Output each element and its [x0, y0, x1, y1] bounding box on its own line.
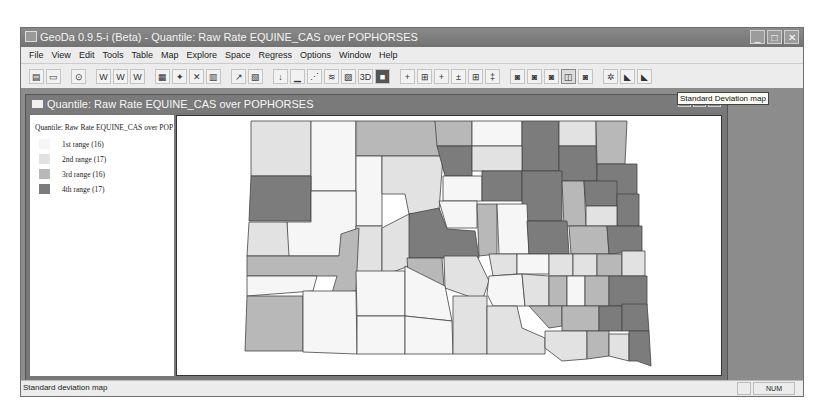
close-project-icon[interactable]: ▭ — [46, 69, 61, 84]
lisa-map-icon[interactable]: ⊞ — [468, 69, 483, 84]
map-canvas[interactable] — [176, 115, 722, 376]
menu-edit[interactable]: Edit — [75, 47, 99, 63]
print-icon[interactable]: ■ — [375, 69, 390, 84]
geoda-app-window: GeoDa 0.9.5-i (Beta) - Quantile: Raw Rat… — [20, 27, 804, 397]
map-5-icon[interactable]: ◙ — [578, 69, 593, 84]
map-1-icon[interactable]: ◙ — [510, 69, 525, 84]
menu-table[interactable]: Table — [127, 47, 157, 63]
mdi-client-area: Quantile: Raw Rate EQUINE_CAS over POPHO… — [21, 88, 803, 381]
weights-properties-icon[interactable]: W — [130, 69, 145, 84]
legend-swatch — [39, 139, 50, 149]
box-icon[interactable]: ▥ — [206, 69, 221, 84]
map-quantile-icon[interactable]: ▦ — [155, 69, 170, 84]
toolbar-tooltip: Standard Deviation map — [677, 92, 769, 105]
moran-icon[interactable]: + — [400, 69, 415, 84]
bivariate-moran-icon[interactable]: + — [434, 69, 449, 84]
legend-label: 3rd range (16) — [62, 170, 105, 179]
status-bar: Standard deviation map NUM — [21, 380, 803, 396]
map-2-icon[interactable]: ◙ — [527, 69, 542, 84]
menu-view[interactable]: View — [48, 47, 75, 63]
close-button[interactable]: ✕ — [784, 30, 799, 44]
lisa-rate-icon[interactable]: ‡ — [485, 69, 500, 84]
menu-tools[interactable]: Tools — [98, 47, 127, 63]
legend-swatch — [39, 154, 50, 164]
menu-window[interactable]: Window — [335, 47, 375, 63]
legend-title: Quantile: Raw Rate EQUINE_CAS over POPHO… — [35, 123, 173, 132]
parallel-coords-icon[interactable]: ≋ — [324, 69, 339, 84]
num-lock-indicator: NUM — [753, 382, 795, 395]
lisa-icon[interactable]: ↗ — [231, 69, 246, 84]
legend-label: 4th range (17) — [62, 185, 104, 194]
menu-help[interactable]: Help — [375, 47, 402, 63]
open-project-icon[interactable]: ▤ — [29, 69, 44, 84]
legend-panel: Quantile: Raw Rate EQUINE_CAS over POPHO… — [30, 115, 174, 376]
maximize-button[interactable]: □ — [767, 30, 782, 44]
legend-swatch — [39, 184, 50, 194]
menu-file[interactable]: File — [25, 47, 48, 63]
map-percentile-icon[interactable]: ✦ — [172, 69, 187, 84]
south-dakota-county-map[interactable] — [177, 116, 721, 378]
conditional-plot-icon[interactable]: ▨ — [341, 69, 356, 84]
weights-create-icon[interactable]: W — [96, 69, 111, 84]
status-indicator-caps — [737, 382, 751, 395]
rate-1-icon[interactable]: ◣ — [620, 69, 635, 84]
std-dev-map-icon[interactable]: ◫ — [561, 69, 576, 84]
pointer-icon[interactable]: ↓ — [273, 69, 288, 84]
histogram-icon[interactable]: ▁ — [290, 69, 305, 84]
status-message: Standard deviation map — [23, 383, 108, 392]
title-bar: GeoDa 0.9.5-i (Beta) - Quantile: Raw Rat… — [21, 28, 803, 47]
toolbar: ▤ ▭ ⊙ W W W ▦ ✦ ✕ ▥ ↗ ▧ ↓ ▁ ⋰ ≋ ▨ 3D ■ +… — [21, 63, 803, 89]
legend-label: 1st range (16) — [62, 140, 104, 149]
legend-item[interactable]: 1st range (16) — [39, 139, 104, 149]
legend-swatch — [39, 169, 50, 179]
legend-item[interactable]: 3rd range (16) — [39, 169, 105, 179]
menu-explore[interactable]: Explore — [182, 47, 221, 63]
legend-label: 2nd range (17) — [62, 155, 106, 164]
geoda-app-icon — [25, 31, 37, 42]
lisa-cluster-icon[interactable]: ▧ — [248, 69, 263, 84]
document-icon — [32, 100, 43, 108]
legend-item[interactable]: 2nd range (17) — [39, 154, 106, 164]
scatter-icon[interactable]: ✕ — [189, 69, 204, 84]
smooth-icon[interactable]: ✲ — [603, 69, 618, 84]
weights-open-icon[interactable]: W — [113, 69, 128, 84]
lisa-univariate-icon[interactable]: ± — [451, 69, 466, 84]
map-3-icon[interactable]: ◙ — [544, 69, 559, 84]
menu-space[interactable]: Space — [221, 47, 255, 63]
moran-rate-icon[interactable]: ⊞ — [417, 69, 432, 84]
scatter-plot-icon[interactable]: ⋰ — [307, 69, 322, 84]
legend-item[interactable]: 4th range (17) — [39, 184, 104, 194]
menu-options[interactable]: Options — [296, 47, 335, 63]
menu-regress[interactable]: Regress — [254, 47, 296, 63]
child-title-bar: Quantile: Raw Rate EQUINE_CAS over POPHO… — [26, 95, 727, 113]
centroid-icon[interactable]: ⊙ — [71, 69, 86, 84]
child-window-title: Quantile: Raw Rate EQUINE_CAS over POPHO… — [47, 98, 314, 110]
menu-bar: File View Edit Tools Table Map Explore S… — [21, 47, 803, 63]
quantile-map-window: Quantile: Raw Rate EQUINE_CAS over POPHO… — [25, 94, 728, 381]
window-title: GeoDa 0.9.5-i (Beta) - Quantile: Raw Rat… — [40, 31, 418, 43]
minimize-button[interactable]: _ — [750, 30, 765, 44]
3d-icon[interactable]: 3D — [358, 69, 373, 84]
menu-map[interactable]: Map — [157, 47, 183, 63]
rate-2-icon[interactable]: ◣ — [637, 69, 652, 84]
